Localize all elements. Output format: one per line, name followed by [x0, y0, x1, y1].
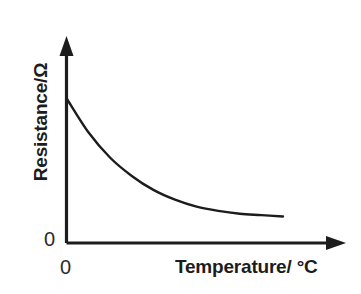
- y-axis-arrowhead: [60, 36, 74, 56]
- x-axis-arrowhead: [326, 236, 346, 250]
- x-axis-title: Temperature/ °C: [175, 256, 318, 278]
- chart-figure: Resistance/Ω Temperature/ °C 0 0: [0, 0, 361, 294]
- x-axis-tick-zero: 0: [60, 256, 71, 279]
- y-axis-title: Resistance/Ω: [30, 63, 52, 181]
- y-axis-tick-zero: 0: [44, 228, 55, 251]
- resistance-curve: [67, 99, 283, 217]
